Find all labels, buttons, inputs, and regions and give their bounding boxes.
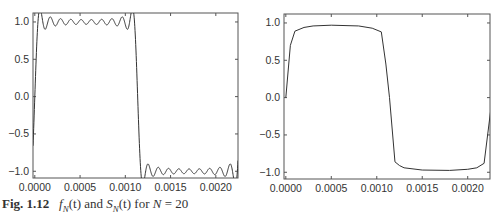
figure-canvas: 0.00000.00050.00100.00150.00201.00.50.0−… [0,0,495,218]
x-tick-label: 0.0015 [406,182,438,194]
x-tick-label: 0.0015 [155,181,187,193]
caption-for: for [131,196,153,211]
y-tick-label: 0.5 [14,53,29,65]
y-tick-label: 0.5 [265,54,280,66]
y-tick-label: −1.0 [259,166,280,178]
y-tick-label: 1.0 [265,16,280,28]
y-tick-label: −0.5 [259,128,280,140]
y-tick-label: 0.0 [265,91,280,103]
x-tick-label: 0.0005 [64,181,96,193]
x-tick-label: 0.0000 [19,181,51,193]
plot-fN: 0.00000.00050.00100.00150.00201.00.50.0−… [8,9,238,193]
y-tick-label: −1.0 [8,165,29,177]
series-line [286,25,492,170]
x-tick-label: 0.0020 [452,182,484,194]
y-tick-label: 1.0 [14,15,29,27]
x-tick-label: 0.0020 [200,181,232,193]
caption-arg2: (t) [119,196,131,211]
caption-arg1: (t) [69,196,81,211]
y-tick-label: −0.5 [8,127,29,139]
x-tick-label: 0.0005 [315,182,347,194]
x-tick-label: 0.0000 [270,182,302,194]
series-line [33,9,238,185]
y-tick-label: 0.0 [14,90,29,102]
plot-SN: 0.00000.00050.00100.00150.00201.00.50.0−… [259,14,492,194]
x-tick-label: 0.0010 [109,181,141,193]
x-tick-label: 0.0010 [361,182,393,194]
figure-label: Fig. 1.12 [2,196,49,211]
caption-eq: = 20 [161,196,188,211]
plot-frame [284,14,490,179]
caption-and: and [81,196,106,211]
figure-caption: Fig. 1.12 fN(t) and SN(t) for N = 20 [2,196,188,214]
